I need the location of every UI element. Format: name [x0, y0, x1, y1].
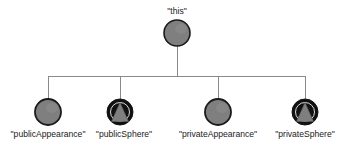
- node-private-sphere[interactable]: "privateSphere": [275, 99, 335, 139]
- diagram-canvas: "this" "publicAppearance" "publicSphere"…: [0, 0, 352, 147]
- node-public-sphere[interactable]: "publicSphere": [96, 99, 152, 139]
- node-this-label: "this": [167, 6, 186, 16]
- edge-group: [48, 46, 305, 99]
- node-private-appearance[interactable]: "privateAppearance": [179, 99, 257, 139]
- node-private-sphere-label: "privateSphere": [275, 129, 335, 139]
- node-this-highlight: [175, 24, 187, 34]
- node-private-appearance-label: "privateAppearance": [179, 129, 257, 139]
- node-this-circle[interactable]: [164, 20, 190, 46]
- node-this[interactable]: "this": [164, 6, 190, 46]
- object-reference-diagram: "this" "publicAppearance" "publicSphere"…: [0, 0, 352, 147]
- node-public-sphere-label: "publicSphere": [96, 129, 152, 139]
- node-public-appearance-highlight: [46, 103, 58, 113]
- node-public-appearance-circle[interactable]: [35, 99, 61, 125]
- node-public-appearance[interactable]: "publicAppearance": [11, 99, 86, 139]
- node-public-appearance-label: "publicAppearance": [11, 129, 86, 139]
- node-private-appearance-circle[interactable]: [205, 99, 231, 125]
- node-private-appearance-highlight: [216, 103, 228, 113]
